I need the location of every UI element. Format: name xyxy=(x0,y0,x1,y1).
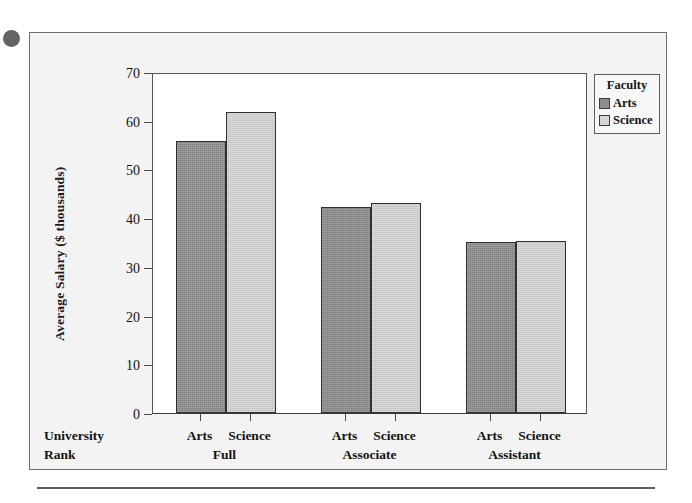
bar-associate-arts xyxy=(321,207,371,413)
x-axis-corner-label-line1: University xyxy=(44,426,104,445)
x-axis-group-full: ArtsScienceFull xyxy=(152,426,297,464)
legend-swatch-science xyxy=(599,115,610,126)
x-axis-rank-label: Associate xyxy=(297,445,442,464)
x-axis-tick-mark xyxy=(395,414,396,421)
page-footer-rule xyxy=(37,487,655,489)
y-axis-tick-label: 50 xyxy=(126,163,144,178)
y-axis-tick-mark xyxy=(144,317,152,318)
figure-frame: Average Salary ($ thousands) 70605040302… xyxy=(29,32,667,470)
legend-swatch-arts xyxy=(599,98,610,109)
bar-associate-science xyxy=(371,203,421,413)
y-axis-tick-label: 20 xyxy=(126,310,144,325)
bar-assistant-science xyxy=(516,241,566,413)
x-axis-corner-label: University Rank xyxy=(44,426,104,464)
y-axis-tick-60: 60 xyxy=(126,115,152,129)
legend-label-arts: Arts xyxy=(613,95,637,111)
plot-area xyxy=(152,73,587,414)
x-axis-group-assistant: ArtsScienceAssistant xyxy=(442,426,587,464)
y-axis-tick-mark xyxy=(144,73,152,74)
x-axis-rank-label: Assistant xyxy=(442,445,587,464)
x-axis-tick-mark xyxy=(490,414,491,421)
x-axis-tick-mark xyxy=(250,414,251,421)
x-axis-faculty-label: Science xyxy=(370,426,420,445)
y-axis-tick-mark xyxy=(144,122,152,123)
y-axis-tick-40: 40 xyxy=(126,212,152,226)
y-axis-tick-mark xyxy=(144,414,152,415)
y-axis-tick-label: 10 xyxy=(126,358,144,373)
legend-entry-arts: Arts xyxy=(599,95,655,111)
y-axis-tick-mark xyxy=(144,268,152,269)
page-bullet-mark xyxy=(3,30,20,47)
legend: Faculty Arts Science xyxy=(594,74,660,134)
bar-assistant-arts xyxy=(466,242,516,413)
x-axis-faculty-labels: ArtsScience xyxy=(152,426,297,445)
legend-label-science: Science xyxy=(613,112,653,128)
y-axis-tick-70: 70 xyxy=(126,66,152,80)
x-axis-faculty-label: Science xyxy=(225,426,275,445)
y-axis-tick-label: 0 xyxy=(133,407,144,422)
y-axis-tick-label: 60 xyxy=(126,115,144,130)
x-axis-tick-marks xyxy=(152,414,587,422)
x-axis-tick-mark xyxy=(345,414,346,421)
y-axis-tick-label: 40 xyxy=(126,212,144,227)
y-axis-tick-mark xyxy=(144,170,152,171)
bar-full-science xyxy=(226,112,276,413)
x-axis-faculty-labels: ArtsScience xyxy=(442,426,587,445)
bar-full-arts xyxy=(176,141,226,413)
y-axis-title: Average Salary ($ thousands) xyxy=(52,129,72,379)
y-axis-tick-30: 30 xyxy=(126,261,152,275)
y-axis-tick-50: 50 xyxy=(126,163,152,177)
x-axis-faculty-label: Arts xyxy=(175,426,225,445)
x-axis-tick-mark xyxy=(540,414,541,421)
y-axis-tick-0: 0 xyxy=(133,407,152,421)
x-axis-faculty-label: Arts xyxy=(320,426,370,445)
y-axis-tick-mark xyxy=(144,219,152,220)
x-axis-rank-label: Full xyxy=(152,445,297,464)
x-axis-corner-label-line2: Rank xyxy=(44,445,104,464)
legend-title: Faculty xyxy=(599,78,655,93)
x-axis-faculty-label: Arts xyxy=(465,426,515,445)
x-axis-faculty-label: Science xyxy=(515,426,565,445)
x-axis-group-associate: ArtsScienceAssociate xyxy=(297,426,442,464)
x-axis-tick-mark xyxy=(200,414,201,421)
x-axis-labels: University Rank ArtsScienceFullArtsScien… xyxy=(30,423,668,471)
x-axis-faculty-labels: ArtsScience xyxy=(297,426,442,445)
y-axis-tick-20: 20 xyxy=(126,310,152,324)
y-axis-tick-10: 10 xyxy=(126,358,152,372)
legend-entry-science: Science xyxy=(599,112,655,128)
y-axis-ticks: 706050403020100 xyxy=(82,33,152,471)
y-axis-tick-label: 30 xyxy=(126,261,144,276)
y-axis-tick-mark xyxy=(144,365,152,366)
y-axis-tick-label: 70 xyxy=(126,66,144,81)
